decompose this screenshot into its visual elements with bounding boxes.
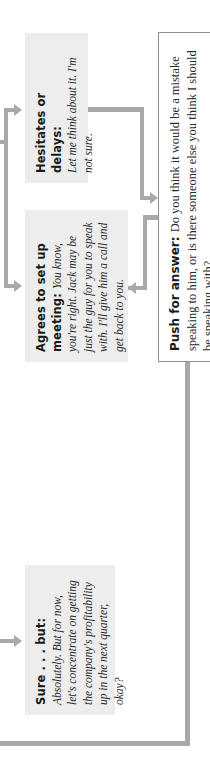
response-body: Let me think about it. I'm not sure. (66, 57, 94, 173)
connector-push-bottom-out (185, 362, 190, 745)
response-heading: Sure . . . but: (34, 618, 48, 705)
connector-hesitates-run (140, 107, 144, 200)
push-heading: Push for answer: (168, 232, 182, 351)
connector-hesitates-out (88, 107, 144, 112)
connector-rail-top (4, 108, 8, 288)
arrow-into-push (150, 192, 158, 204)
connector-push-run (143, 215, 147, 290)
arrow-into-agrees (14, 280, 22, 292)
arrow-into-hesitates (14, 104, 22, 116)
response-box-hesitates: Hesitates or delays: Let me think about … (25, 33, 88, 183)
arrow-back-into-agrees (128, 282, 136, 294)
response-box-sure-but: Sure . . . but: Absolutely. But for now,… (25, 565, 115, 715)
response-box-agrees: Agrees to set up meeting: You know, you'… (25, 210, 128, 362)
connector-stub-top (0, 140, 8, 144)
arrow-into-sure (14, 635, 22, 647)
flow-diagram: Sure . . . but: Absolutely. But for now,… (0, 0, 210, 760)
connector-loop-vertical (0, 741, 190, 746)
push-for-answer-box: Push for answer: Do you think it would b… (158, 32, 210, 362)
response-heading: Hesitates or delays: (34, 43, 65, 173)
response-body: Absolutely. But for now, let's concentra… (51, 580, 125, 705)
